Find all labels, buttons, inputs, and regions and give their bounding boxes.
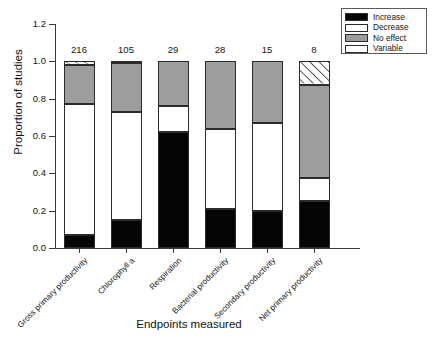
y-axis-tick	[49, 211, 55, 212]
x-axis-tick	[314, 248, 315, 253]
y-axis-tick	[49, 61, 55, 62]
x-axis-tick	[173, 248, 174, 253]
x-axis-category-label: Chlorophyll a	[96, 256, 136, 296]
legend-label: Increase	[373, 13, 405, 22]
legend-label: No effect	[373, 34, 406, 43]
bar-segment-decrease	[299, 178, 330, 201]
x-axis-category-label: Respiration	[148, 256, 184, 292]
y-axis-tick	[49, 248, 55, 249]
sample-size-label: 15	[243, 44, 291, 55]
legend-item: Variable	[345, 44, 423, 54]
x-axis-tick	[126, 248, 127, 253]
sample-size-label: 105	[102, 44, 150, 55]
x-axis-tick	[267, 248, 268, 253]
legend-swatch-variable	[345, 45, 368, 53]
bar-segment-no-effect	[64, 65, 95, 104]
y-axis-tick-label: 0.6	[18, 130, 46, 141]
bar-segment-increase	[252, 211, 283, 248]
bar-segment-increase	[205, 209, 236, 248]
bar-segment-decrease	[252, 123, 283, 211]
stacked-bar	[111, 0, 142, 248]
bar-segment-variable	[64, 61, 95, 65]
y-axis-tick-label: 0.0	[18, 242, 46, 253]
y-axis-tick-label: 1.0	[18, 55, 46, 66]
bar-segment-decrease	[64, 104, 95, 235]
y-axis-tick	[49, 173, 55, 174]
chart-figure: Proportion of studies Endpoints measured…	[0, 0, 433, 345]
y-axis-line	[55, 24, 56, 249]
legend-item: Increase	[345, 12, 423, 22]
legend-swatch-decrease	[345, 24, 368, 32]
sample-size-label: 8	[290, 44, 338, 55]
legend-item: Decrease	[345, 23, 423, 33]
stacked-bar	[205, 0, 236, 248]
stacked-bar	[64, 0, 95, 248]
x-axis-tick	[79, 248, 80, 253]
bar-segment-increase	[111, 220, 142, 248]
bar-segment-no-effect	[158, 61, 189, 106]
legend: IncreaseDecreaseNo effectVariable	[341, 8, 427, 54]
sample-size-label: 28	[196, 44, 244, 55]
stacked-bar	[252, 0, 283, 248]
x-axis-category-label: Gross primary productivity	[16, 256, 90, 330]
legend-label: Variable	[373, 44, 403, 53]
x-axis-tick	[220, 248, 221, 253]
legend-label: Decrease	[373, 23, 409, 32]
y-axis-tick-label: 0.4	[18, 167, 46, 178]
stacked-bar	[299, 0, 330, 248]
bar-segment-decrease	[205, 129, 236, 209]
legend-swatch-increase	[345, 13, 368, 21]
y-axis-tick-label: 0.2	[18, 205, 46, 216]
stacked-bar	[158, 0, 189, 248]
bar-segment-no-effect	[299, 85, 330, 178]
bar-segment-no-effect	[111, 63, 142, 112]
y-axis-tick	[49, 99, 55, 100]
bar-segment-increase	[158, 132, 189, 248]
bar-segment-no-effect	[252, 61, 283, 123]
bar-segment-decrease	[158, 106, 189, 132]
bar-segment-no-effect	[205, 61, 236, 128]
bar-segment-variable	[111, 61, 142, 63]
bar-segment-decrease	[111, 112, 142, 220]
y-axis-tick-label: 0.8	[18, 93, 46, 104]
y-axis-tick	[49, 24, 55, 25]
bar-segment-variable	[299, 61, 330, 84]
legend-item: No effect	[345, 33, 423, 43]
bar-segment-increase	[64, 235, 95, 248]
sample-size-label: 29	[149, 44, 197, 55]
y-axis-tick	[49, 136, 55, 137]
y-axis-tick-label: 1.2	[18, 18, 46, 29]
sample-size-label: 216	[55, 44, 103, 55]
legend-swatch-no-effect	[345, 34, 368, 42]
bar-segment-increase	[299, 201, 330, 248]
